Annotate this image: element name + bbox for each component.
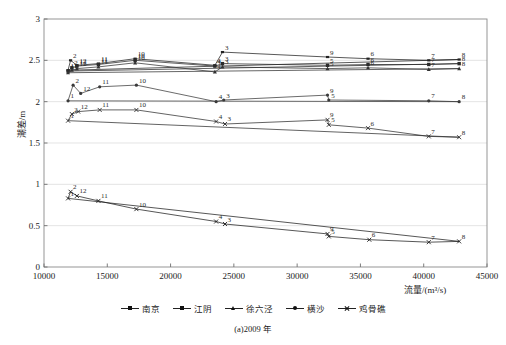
data-point-label: 7 — [431, 234, 435, 242]
legend-swatch-dash-icon — [121, 304, 139, 312]
y-tick-label: 2.5 — [29, 55, 41, 65]
x-tick-label: 45000 — [476, 271, 499, 281]
data-point-label: 2 — [76, 77, 80, 85]
legend-label: 江阴 — [194, 302, 212, 314]
legend-swatch-square-icon — [173, 304, 191, 312]
data-point-label: 6 — [371, 120, 375, 128]
legend-item-4[interactable]: 横沙 — [286, 302, 325, 314]
data-point-label: 3 — [225, 44, 229, 52]
legend-item-5[interactable]: 鸡骨礁 — [338, 302, 386, 314]
data-point-label: 10 — [139, 77, 147, 85]
data-point-label: 8 — [462, 233, 466, 241]
data-point-marker — [69, 59, 72, 61]
data-point-marker — [221, 51, 224, 53]
data-point-marker — [458, 100, 461, 103]
y-tick-label: 1 — [36, 179, 41, 189]
x-tick-label: 30000 — [286, 271, 309, 281]
data-point-label: 4 — [219, 93, 223, 101]
series-closing-line — [68, 198, 459, 241]
series-4: 12121110439578 — [66, 77, 465, 104]
legend-swatch-dot-icon — [286, 304, 304, 312]
legend-swatch-cross-icon — [338, 304, 356, 312]
data-point-label: 7 — [431, 61, 435, 69]
tidal-range-vs-discharge-chart: 00.511.522.53100001500020000250003000035… — [0, 0, 506, 345]
legend-label: 鸡骨礁 — [359, 302, 386, 314]
data-point-label: 6 — [371, 59, 375, 67]
data-point-label: 12 — [83, 85, 91, 93]
x-tick-label: 15000 — [96, 271, 119, 281]
x-tick-label: 40000 — [412, 271, 435, 281]
x-tick-label: 20000 — [159, 271, 182, 281]
series-line — [68, 110, 459, 137]
data-point-label: 10 — [138, 54, 146, 62]
data-point-marker — [222, 98, 225, 101]
data-point-marker — [72, 84, 75, 87]
figure-caption: (a)2009 年 — [0, 322, 506, 334]
series-closing-line — [68, 69, 459, 73]
data-point-marker — [221, 62, 224, 65]
data-point-label: 8 — [462, 129, 466, 137]
data-point-label: 8 — [462, 60, 466, 68]
data-point-label: 4 — [219, 213, 223, 221]
y-axis-title: 潮差/m — [15, 90, 28, 160]
legend-label: 横沙 — [307, 302, 325, 314]
data-point-label: 5 — [331, 92, 335, 100]
data-point-marker — [66, 99, 69, 102]
data-point-marker — [326, 56, 329, 58]
data-point-marker — [79, 92, 82, 95]
data-point-label: 3 — [227, 115, 231, 123]
x-tick-label: 10000 — [33, 271, 56, 281]
series-line — [68, 85, 459, 102]
data-point-label: 5 — [331, 228, 335, 236]
data-point-marker — [135, 84, 138, 87]
data-point-label: 8 — [462, 93, 466, 101]
chart-page: 00.511.522.53100001500020000250003000035… — [0, 0, 506, 345]
legend-item-3[interactable]: 徐六泾 — [225, 302, 273, 314]
y-tick-label: 2 — [36, 97, 41, 107]
data-point-marker — [326, 93, 329, 96]
data-point-label: 11 — [102, 101, 109, 109]
y-tick-label: 3 — [36, 14, 41, 24]
data-point-label: 4 — [217, 63, 221, 71]
data-point-label: 3 — [227, 216, 231, 224]
series-closing-line — [68, 121, 459, 138]
data-point-label: 11 — [101, 192, 108, 200]
legend-swatch-triangle-icon — [225, 304, 243, 312]
data-point-marker — [366, 58, 369, 60]
data-point-label: 5 — [331, 116, 335, 124]
y-tick-label: 0.5 — [29, 221, 41, 231]
data-point-marker — [427, 59, 430, 61]
data-point-marker — [457, 62, 460, 65]
data-point-label: 4 — [219, 113, 223, 121]
data-point-marker — [326, 64, 329, 67]
data-point-marker — [215, 100, 218, 103]
data-point-label: 9 — [330, 49, 334, 57]
data-point-label: 10 — [139, 101, 147, 109]
chart-legend: 南京江阴徐六泾横沙鸡骨礁 — [0, 302, 506, 314]
data-point-label: 3 — [225, 58, 229, 66]
data-point-marker — [427, 63, 430, 66]
data-point-label: 12 — [79, 60, 87, 68]
data-point-label: 5 — [330, 60, 334, 68]
series-2: 12121110435678 — [66, 52, 465, 73]
legend-item-1[interactable]: 南京 — [121, 302, 160, 314]
data-point-marker — [458, 58, 461, 60]
legend-label: 徐六泾 — [246, 302, 273, 314]
data-point-label: 6 — [372, 231, 376, 239]
y-tick-label: 1.5 — [29, 138, 41, 148]
data-point-label: 11 — [101, 58, 108, 66]
data-point-marker — [213, 64, 216, 67]
data-point-label: 1 — [71, 92, 75, 100]
data-point-label: 2 — [73, 183, 77, 191]
series-6: 121211104395678 — [66, 183, 466, 244]
data-point-label: 11 — [102, 78, 109, 86]
data-point-label: 12 — [79, 187, 87, 195]
legend-item-2[interactable]: 江阴 — [173, 302, 212, 314]
data-point-label: 7 — [431, 92, 435, 100]
data-point-label: 7 — [431, 128, 435, 136]
data-point-marker — [327, 98, 330, 101]
x-tick-label: 25000 — [223, 271, 246, 281]
x-axis-title: 流量/(m³/s) — [404, 283, 446, 296]
data-point-marker — [98, 85, 101, 88]
data-point-label: 3 — [226, 92, 230, 100]
